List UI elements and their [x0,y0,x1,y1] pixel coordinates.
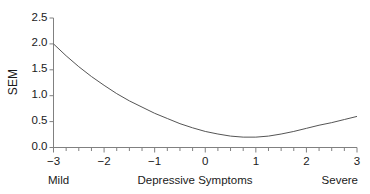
x-tick-label: 0 [193,155,217,167]
y-tick-label: 0.5 [20,114,48,126]
x-tick-label: −3 [42,155,66,167]
x-tick-label: 2 [294,155,318,167]
x-tick-label: −2 [92,155,116,167]
x-axis-title: Depressive Symptoms [120,174,270,186]
y-tick-label: 1.5 [20,62,48,74]
x-anchor-low-label: Mild [48,174,69,186]
y-tick-label: 2.5 [20,11,48,23]
chart-figure: SEM Depressive Symptoms Mild Severe 0.00… [0,0,370,194]
y-tick-label: 1.0 [20,88,48,100]
x-axis-major-ticks [54,148,358,153]
x-tick-label: 1 [244,155,268,167]
y-tick-label: 0.0 [20,140,48,152]
x-anchor-high-label: Severe [322,174,358,186]
data-series-sem [54,44,358,137]
x-tick-label: −1 [143,155,167,167]
y-axis-label: SEM [2,52,24,112]
x-tick-label: 3 [345,155,369,167]
y-tick-label: 2.0 [20,36,48,48]
y-axis-ticks [50,18,54,148]
y-axis-label-text: SEM [2,52,24,112]
